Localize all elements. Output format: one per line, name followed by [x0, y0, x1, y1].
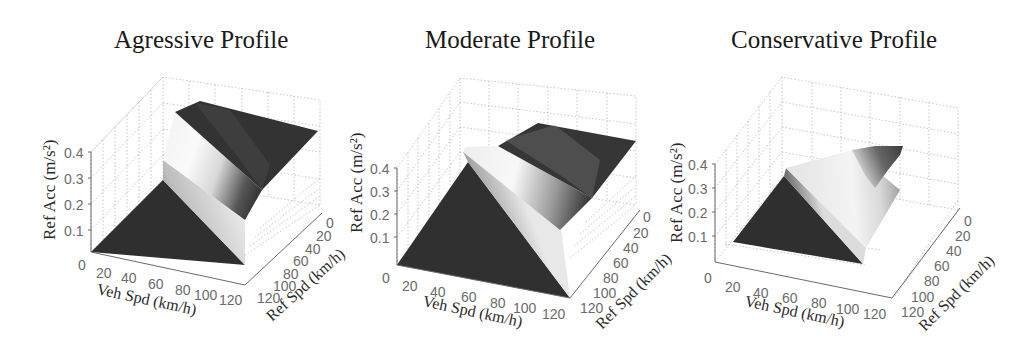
svg-text:80: 80 [603, 270, 619, 286]
svg-text:20: 20 [402, 278, 418, 294]
z-ticks: 0.4 0.3 0.2 0.1 [370, 161, 390, 246]
svg-text:120: 120 [542, 306, 566, 322]
svg-text:40: 40 [121, 270, 137, 286]
svg-text:0.3: 0.3 [370, 184, 390, 200]
surface-plot: 0.4 0.3 0.2 0.1 0 20 40 60 80 100 120 0 … [670, 0, 1017, 348]
svg-text:60: 60 [613, 255, 629, 271]
surface-plot: 0.4 0.3 0.2 0.1 0 20 40 60 80 100 120 0 … [330, 0, 680, 348]
svg-text:80: 80 [175, 282, 191, 298]
z-ticks: 0.4 0.3 0.2 0.1 [688, 157, 708, 245]
svg-text:0.4: 0.4 [64, 145, 84, 161]
z-ticks: 0.4 0.3 0.2 0.1 [64, 145, 84, 239]
surface-plot: 0.4 0.3 0.2 0.1 0 20 40 60 80 100 120 0 … [0, 0, 340, 348]
svg-text:0.3: 0.3 [688, 181, 708, 197]
svg-text:0: 0 [704, 270, 712, 286]
surface [733, 146, 903, 264]
svg-text:40: 40 [946, 243, 962, 259]
svg-text:120: 120 [863, 306, 887, 322]
svg-text:0.3: 0.3 [64, 171, 84, 187]
svg-text:120: 120 [219, 292, 243, 308]
svg-text:0.1: 0.1 [370, 230, 390, 246]
svg-text:100: 100 [911, 289, 935, 305]
svg-text:40: 40 [623, 240, 639, 256]
svg-text:0.1: 0.1 [64, 223, 84, 239]
svg-text:0: 0 [643, 209, 651, 225]
svg-text:20: 20 [96, 265, 112, 281]
svg-text:0.4: 0.4 [370, 161, 390, 177]
svg-text:60: 60 [148, 276, 164, 292]
panel-agressive: Agressive Profile [0, 0, 340, 348]
svg-text:0.2: 0.2 [370, 207, 390, 223]
svg-text:0: 0 [964, 213, 972, 229]
svg-text:0.2: 0.2 [64, 197, 84, 213]
svg-text:80: 80 [924, 273, 940, 289]
panel-moderate: Moderate Profile [330, 0, 680, 348]
z-axis-label: Ref Acc (m/s²) [40, 140, 59, 240]
surface [91, 101, 318, 265]
svg-text:20: 20 [633, 225, 649, 241]
svg-text:20: 20 [725, 279, 741, 295]
svg-text:60: 60 [934, 258, 950, 274]
panel-conservative: Conservative Profile [670, 0, 1017, 348]
svg-text:20: 20 [955, 228, 971, 244]
z-axis-label: Ref Acc (m/s²) [667, 143, 686, 243]
svg-text:0: 0 [78, 257, 86, 273]
svg-text:0.1: 0.1 [688, 229, 708, 245]
z-axis-label: Ref Acc (m/s²) [347, 133, 366, 233]
svg-text:0.2: 0.2 [688, 205, 708, 221]
svg-text:0: 0 [382, 270, 390, 286]
svg-text:0.4: 0.4 [688, 157, 708, 173]
